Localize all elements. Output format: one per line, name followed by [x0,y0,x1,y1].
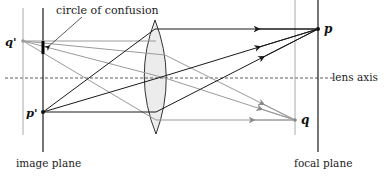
ray-diagram: circle of confusion lens axis image plan… [0,0,384,179]
point-q-prime-label: q' [5,35,17,49]
circle-of-confusion-pointer [48,17,82,47]
lens-axis-label: lens axis [332,71,378,83]
point-p-prime-dot [41,110,45,114]
circle-of-confusion-label: circle of confusion [56,4,159,17]
image-plane-label: image plane [16,157,81,169]
point-p-label: p [324,22,333,36]
point-p-prime-label: p' [26,106,38,120]
point-q-dot [293,118,297,122]
point-q-prime-dot [21,39,25,43]
point-q-label: q [301,113,309,127]
focal-plane-label: focal plane [294,157,352,169]
point-p-dot [316,27,320,31]
